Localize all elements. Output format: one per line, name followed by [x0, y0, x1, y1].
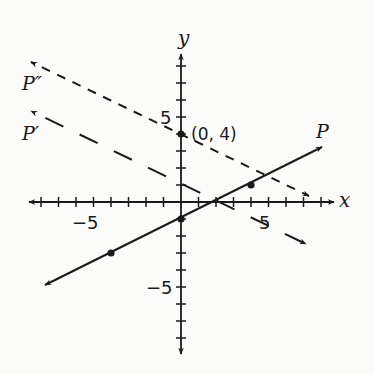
- coordinate-plane: y x −5 5 5 −5 (0, 4) P P′ P″: [0, 0, 374, 374]
- line-label-p-prime: P′: [21, 122, 40, 144]
- y-tick-label-5: 5: [160, 107, 171, 128]
- y-tick-label-neg5: −5: [146, 277, 173, 298]
- y-axis-label: y: [177, 26, 190, 50]
- y-axis: [176, 54, 186, 354]
- x-tick-label-5: 5: [259, 212, 270, 233]
- point-4-1: [247, 181, 254, 188]
- point-neg4-neg3: [107, 249, 114, 256]
- point-0-neg1: [177, 215, 184, 222]
- point-0-4: [177, 130, 184, 137]
- line-p-double-prime: [31, 62, 309, 196]
- point-label-0-4: (0, 4): [191, 124, 237, 144]
- x-axis-label: x: [339, 188, 350, 212]
- line-label-p-double-prime: P″: [21, 72, 42, 94]
- line-label-p: P: [315, 120, 330, 142]
- x-tick-label-neg5: −5: [72, 212, 99, 233]
